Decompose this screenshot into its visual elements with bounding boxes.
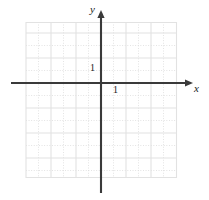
x-tick-label-1: 1 — [113, 85, 118, 95]
y-axis-label: y — [90, 4, 95, 15]
coordinate-plane-figure: x y 1 1 — [0, 0, 209, 200]
y-axis-arrowhead — [97, 10, 104, 18]
x-axis-arrowhead — [185, 79, 193, 86]
y-tick-label-1: 1 — [90, 63, 95, 73]
coordinate-plane-svg — [0, 0, 209, 200]
x-axis-label: x — [194, 83, 199, 94]
